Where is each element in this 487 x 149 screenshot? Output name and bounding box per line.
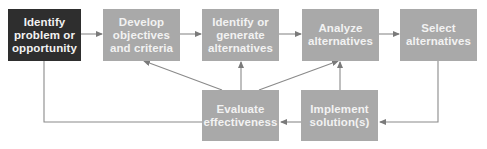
node-identify-problem: Identify problem or opportunity: [8, 9, 81, 61]
arrow-select-to-implement: [380, 61, 438, 122]
node-analyze-alternatives: Analyze alternatives: [302, 9, 379, 61]
node-implement-solutions: Implement solution(s): [301, 90, 378, 141]
arrow-evaluate-to-analyze: [259, 61, 338, 90]
node-develop-objectives: Develop objectives and criteria: [103, 9, 180, 61]
arrow-evaluate-to-develop: [144, 61, 222, 90]
node-evaluate-effectiveness: Evaluate effectiveness: [202, 90, 279, 141]
node-label: Identify problem or opportunity: [12, 16, 77, 55]
node-select-alternatives: Select alternatives: [400, 9, 477, 61]
node-label: Develop objectives and criteria: [110, 16, 173, 55]
node-label: Evaluate effectiveness: [203, 103, 277, 129]
node-label: Analyze alternatives: [308, 22, 373, 48]
node-identify-alternatives: Identify or generate alternatives: [202, 9, 279, 61]
node-label: Implement solution(s): [310, 103, 370, 129]
arrow-evaluate-to-identify-problem: [44, 61, 202, 122]
node-label: Select alternatives: [406, 22, 471, 48]
node-label: Identify or generate alternatives: [208, 16, 273, 55]
